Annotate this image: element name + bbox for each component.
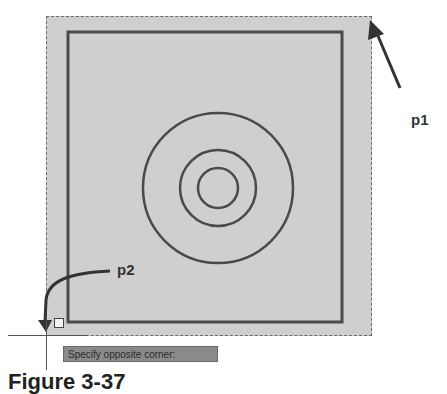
middle-circle[interactable] [180,150,256,226]
inner-circle[interactable] [198,168,238,208]
outer-circle[interactable] [143,113,293,263]
point-label-p2: p2 [117,261,135,278]
p2-arrowhead-icon [38,320,52,332]
crosshair-vertical [46,320,47,370]
cursor-grip-icon [54,318,64,328]
p1-arrow-icon [378,36,400,88]
crosshair-horizontal [8,335,88,336]
p2-arrow-icon [45,271,110,322]
figure-caption: Figure 3-37 [8,371,125,393]
rectangle-object[interactable] [68,32,342,322]
point-label-p1: p1 [411,111,429,128]
command-tooltip: Specify opposite corner: [63,346,218,362]
p1-arrowhead-icon [368,20,384,40]
